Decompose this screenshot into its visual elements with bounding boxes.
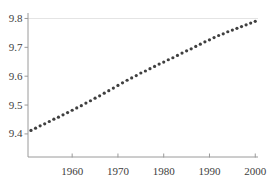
y-tick-label: 9.5 (9, 99, 23, 111)
x-tick-label: 1990 (198, 165, 221, 177)
data-point (254, 20, 257, 23)
data-point (144, 69, 147, 72)
data-point (158, 62, 161, 65)
data-point (43, 122, 46, 125)
screenshot-root: 9.49.59.69.79.819601970198019902000 (0, 0, 267, 187)
data-point (222, 32, 225, 35)
data-point (116, 84, 119, 87)
data-point (167, 58, 170, 61)
data-point (130, 76, 133, 79)
data-point (135, 74, 138, 77)
data-point (235, 27, 238, 30)
data-point (226, 30, 229, 33)
y-tick-label: 9.8 (9, 12, 23, 24)
data-point (84, 101, 87, 104)
x-tick-label: 2000 (244, 165, 267, 177)
data-point (190, 47, 193, 50)
data-point (185, 49, 188, 52)
data-point (112, 86, 115, 89)
data-point (80, 104, 83, 107)
data-point (139, 71, 142, 74)
data-point (231, 28, 234, 31)
data-point (61, 113, 64, 116)
data-point (203, 40, 206, 43)
scatter-chart-canvas: 9.49.59.69.79.819601970198019902000 (0, 0, 267, 187)
data-point (34, 127, 37, 130)
data-point (98, 94, 101, 97)
data-point (194, 45, 197, 48)
data-point (162, 60, 165, 63)
scatter-chart-figure: 9.49.59.69.79.819601970198019902000 (0, 0, 267, 187)
data-point (125, 79, 128, 82)
data-point (217, 34, 220, 37)
data-point (75, 106, 78, 109)
data-point (57, 116, 60, 119)
data-point (212, 36, 215, 39)
data-point (71, 109, 74, 112)
data-point (171, 56, 174, 59)
data-point (107, 89, 110, 92)
data-point (29, 129, 32, 132)
data-point (121, 81, 124, 84)
data-point (249, 22, 252, 25)
data-point (240, 25, 243, 28)
data-point (180, 52, 183, 55)
data-point (153, 65, 156, 68)
y-tick-label: 9.4 (9, 127, 23, 139)
data-point (103, 92, 106, 95)
data-point (244, 23, 247, 26)
data-point (208, 38, 211, 41)
data-point (93, 97, 96, 100)
data-point (52, 118, 55, 121)
data-point (199, 43, 202, 46)
x-tick-label: 1970 (107, 165, 130, 177)
data-point (176, 54, 179, 57)
y-tick-label: 9.7 (9, 41, 23, 53)
y-tick-label: 9.6 (9, 70, 23, 82)
data-point (48, 120, 51, 123)
x-tick-label: 1980 (153, 165, 176, 177)
data-point (39, 124, 42, 127)
data-point (66, 111, 69, 114)
data-point (89, 99, 92, 102)
x-tick-label: 1960 (61, 165, 84, 177)
data-point (148, 67, 151, 70)
